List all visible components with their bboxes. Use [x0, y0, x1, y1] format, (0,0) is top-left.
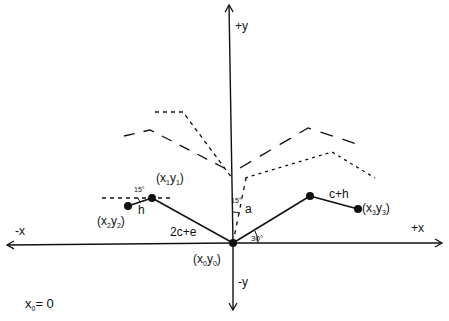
segment-label-left-arm: 2c+e [170, 226, 196, 238]
point-label-p0: (x0y0) [193, 253, 221, 267]
segment-label-right-arm: c+h [329, 188, 349, 200]
angle-label-30: 30° [251, 235, 263, 243]
point-label-p3: (x3y3) [362, 202, 390, 216]
note-x0: x0= 0 [25, 297, 54, 312]
joint-p1 [148, 194, 156, 202]
y-axis [229, 5, 233, 243]
angle-label-hand-15: 15° [134, 186, 145, 193]
axes [7, 5, 442, 310]
point-label-p2: (x2y2) [97, 215, 125, 229]
dotted-right-arm-ref [245, 152, 375, 178]
axis-label-pos-y: +y [235, 20, 248, 32]
joint-elbow-right [306, 192, 314, 200]
joint-p0 [229, 239, 237, 247]
dashed-top-arc [124, 130, 228, 170]
point-label-p1: (x1y1) [156, 172, 184, 186]
axis-label-neg-x: -x [15, 225, 25, 237]
reference-pose-dashed [102, 112, 375, 243]
angle-arc-15 [233, 212, 240, 213]
joint-p2 [124, 202, 132, 210]
angle-label-a: a [245, 203, 252, 215]
angle-label-vertical-15: 15° [231, 197, 242, 204]
axis-label-neg-y: -y [238, 276, 248, 288]
joint-p3 [354, 205, 362, 213]
arm-segments [128, 196, 358, 243]
stick-figure-diagram [0, 0, 449, 321]
segment-label-hand: h [138, 204, 145, 216]
x-axis-negative [7, 243, 233, 245]
axis-label-pos-x: +x [411, 222, 424, 234]
dotted-left-arm-ref [155, 112, 232, 178]
